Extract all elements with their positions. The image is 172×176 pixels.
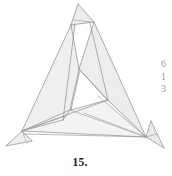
figure-container: 6 1 3 15. <box>0 0 172 176</box>
margin-cropped-text: 6 1 3 <box>161 58 172 96</box>
polyhedron-figure-svg <box>0 0 172 176</box>
margin-line-1: 6 <box>161 58 172 71</box>
margin-line-3: 3 <box>161 83 172 96</box>
margin-line-2: 1 <box>161 71 172 84</box>
figure-caption: 15. <box>0 156 160 168</box>
